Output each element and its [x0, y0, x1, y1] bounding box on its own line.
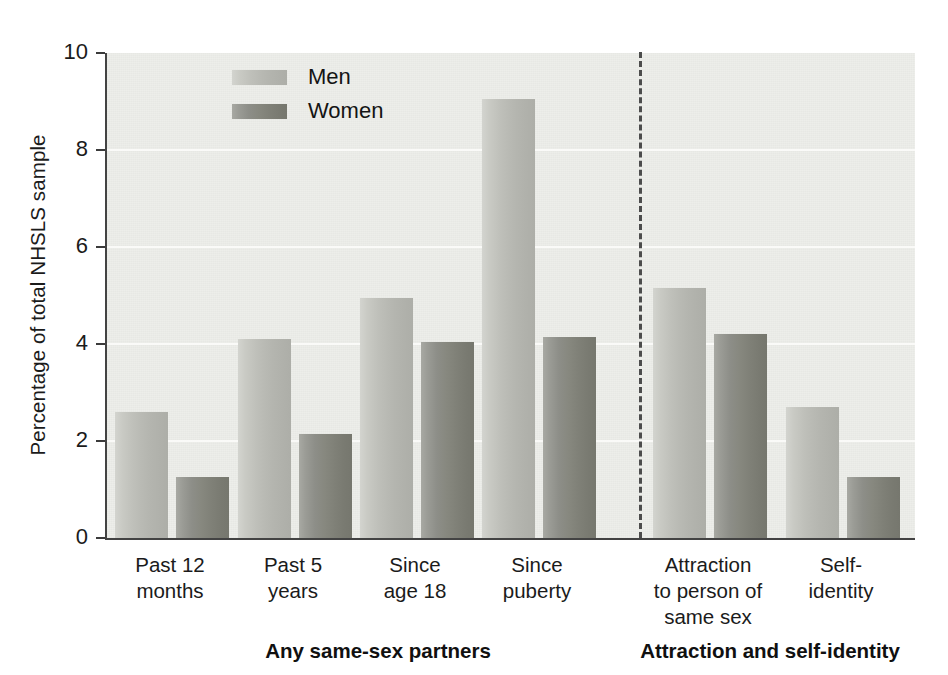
y-tick-mark — [96, 537, 105, 539]
legend-swatch-men — [232, 70, 287, 85]
bar-women-1 — [299, 434, 352, 538]
legend-item-men: Men — [232, 60, 462, 94]
x-category-label-line: same sex — [618, 604, 798, 630]
bar-men-3 — [482, 99, 535, 538]
legend-item-women: Women — [232, 94, 462, 128]
bar-women-2 — [421, 342, 474, 538]
x-category-label-5: Self-identity — [751, 552, 931, 604]
x-category-label-line: identity — [751, 578, 931, 604]
y-tick-mark — [96, 149, 105, 151]
legend-swatch-women — [232, 104, 287, 119]
x-category-label-line: puberty — [447, 578, 627, 604]
bar-women-5 — [847, 477, 900, 538]
y-tick-mark — [96, 343, 105, 345]
y-tick-label: 10 — [28, 41, 88, 63]
bar-men-4 — [653, 288, 706, 538]
bar-chart-figure: Percentage of total NHSLS sample 1086420… — [0, 0, 948, 675]
y-tick-label: 2 — [28, 429, 88, 451]
bar-men-5 — [786, 407, 839, 538]
bar-women-3 — [543, 337, 596, 538]
bar-men-2 — [360, 298, 413, 538]
bar-men-0 — [115, 412, 168, 538]
y-tick-mark — [96, 440, 105, 442]
group-divider-dashed-line — [639, 52, 642, 538]
legend-label-women: Women — [308, 100, 383, 122]
group-title-1: Attraction and self-identity — [520, 641, 948, 662]
y-tick-label: 0 — [28, 526, 88, 548]
plot-area — [105, 53, 915, 540]
legend-label-men: Men — [308, 66, 351, 88]
x-category-label-line: Self- — [751, 552, 931, 578]
y-tick-mark — [96, 246, 105, 248]
bar-women-4 — [714, 334, 767, 538]
y-tick-label: 4 — [28, 332, 88, 354]
y-axis-title: Percentage of total NHSLS sample — [26, 45, 50, 545]
y-tick-label: 8 — [28, 138, 88, 160]
bar-women-0 — [176, 477, 229, 538]
y-tick-label: 6 — [28, 235, 88, 257]
legend: MenWomen — [232, 60, 462, 128]
y-tick-mark — [96, 52, 105, 54]
bar-men-1 — [238, 339, 291, 538]
x-category-label-line: Since — [447, 552, 627, 578]
x-category-label-3: Sincepuberty — [447, 552, 627, 604]
